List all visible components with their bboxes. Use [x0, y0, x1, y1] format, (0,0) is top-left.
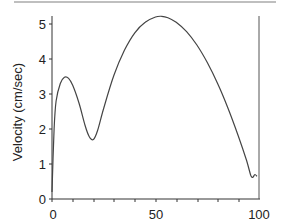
y-tick-label-1: 1	[39, 157, 46, 172]
velocity-curve	[52, 16, 257, 192]
y-tick-label-2: 2	[39, 122, 46, 137]
y-axis-title: Velocity (cm/sec)	[10, 63, 25, 161]
y-tick-label-3: 3	[39, 87, 46, 102]
velocity-chart: 0 1 2 3 4 5 0 50 100 Velocity (cm/sec)	[0, 0, 281, 224]
x-tick-label-50: 50	[149, 207, 163, 222]
y-tick-label-4: 4	[39, 52, 46, 67]
x-tick-label-0: 0	[49, 207, 56, 222]
x-tick-label-100: 100	[248, 207, 270, 222]
y-tick-label-0: 0	[39, 192, 46, 207]
y-tick-label-5: 5	[39, 17, 46, 32]
